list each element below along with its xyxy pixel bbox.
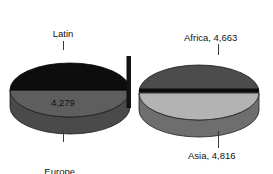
africa-asia-separator	[139, 89, 259, 93]
africa-slice-top	[139, 65, 259, 92]
europe-label: Europe, 5,068	[28, 143, 94, 174]
asia-leader-line	[218, 131, 219, 148]
left-half-cut-face	[127, 56, 132, 108]
africa-leader-line	[218, 44, 219, 55]
asia-label: Asia, 4,816	[188, 150, 272, 162]
pie-half-right	[139, 65, 259, 137]
latin-america-label-line1: Latin	[24, 28, 102, 40]
europe-label-line1: Europe,	[28, 166, 94, 174]
europe-leader-line	[63, 131, 64, 142]
latin-america-label-line3: 4,279	[24, 97, 102, 109]
latin-america-label: Latin America, 4,279	[24, 5, 102, 132]
pie-chart: Latin America, 4,279 Europe, 5,068 Afric…	[0, 0, 273, 174]
latin-america-label-line2: America,	[24, 63, 102, 75]
africa-label: Africa, 4,663	[184, 32, 272, 44]
